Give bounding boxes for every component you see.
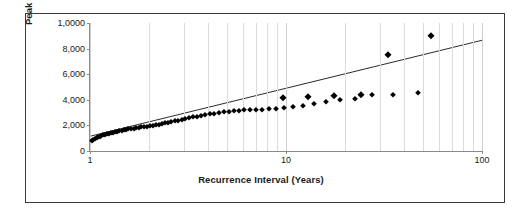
data-point [415, 90, 421, 96]
y-axis-tick-label: 8,000 [62, 44, 85, 54]
gridline-vertical [256, 23, 257, 151]
y-axis-title-text: Peak Stream Flow (cfs) [23, 0, 34, 32]
gridline-vertical [439, 23, 440, 151]
gridline-vertical [286, 23, 287, 151]
data-point [273, 106, 279, 112]
gridline-vertical [184, 23, 185, 151]
gridline-vertical [149, 23, 150, 151]
data-point [337, 97, 343, 103]
data-point [290, 104, 296, 110]
data-point [330, 92, 338, 100]
data-point [427, 32, 435, 40]
x-axis-tick-label: 10 [281, 155, 291, 165]
data-point [305, 93, 313, 101]
gridline-vertical [345, 23, 346, 151]
data-point [369, 92, 375, 98]
gridline-vertical [404, 23, 405, 151]
gridline-vertical [208, 23, 209, 151]
x-axis-title: Recurrence Interval (Years) [26, 174, 496, 185]
x-axis-tick-label: 1 [87, 155, 92, 165]
gridline-vertical [277, 23, 278, 151]
gridline-vertical [90, 23, 91, 151]
x-axis-tick-mark [482, 151, 483, 154]
y-axis-tick-label: 2,000 [62, 120, 85, 130]
x-axis-tick-mark [286, 151, 287, 154]
y-axis-tick-mark [87, 100, 90, 101]
gridline-vertical [267, 23, 268, 151]
y-axis-tick-mark [87, 49, 90, 50]
gridline-vertical [227, 23, 228, 151]
y-axis-title: Peak Stream Flow (cfs) [23, 0, 37, 32]
data-point [384, 51, 392, 59]
gridline-vertical [380, 23, 381, 151]
data-point [390, 92, 396, 98]
gridline-vertical [463, 23, 464, 151]
data-point [300, 102, 306, 108]
data-point [352, 95, 358, 101]
y-axis-tick-label: 0 [80, 146, 85, 156]
gridline-vertical [423, 23, 424, 151]
gridline-vertical [243, 23, 244, 151]
gridline-vertical [473, 23, 474, 151]
y-axis-tick-mark [87, 23, 90, 24]
x-axis-tick-mark [90, 151, 91, 154]
chart-figure: Peak Stream Flow (cfs) 02,0004,0006,0008… [25, 13, 505, 203]
y-axis-tick-label: 1,0000 [57, 18, 85, 28]
x-axis-title-text: Recurrence Interval (Years) [198, 174, 324, 185]
x-axis-tick-label: 100 [474, 155, 489, 165]
data-point [311, 101, 317, 107]
y-axis-tick-mark [87, 125, 90, 126]
data-point [323, 99, 329, 105]
gridline-vertical [482, 23, 483, 151]
plot-area: 02,0004,0006,0008,0001,0000110100 [89, 23, 482, 152]
y-axis-tick-mark [87, 74, 90, 75]
y-axis-tick-label: 4,000 [62, 95, 85, 105]
y-axis-tick-label: 6,000 [62, 69, 85, 79]
data-point [259, 107, 265, 113]
gridline-vertical [452, 23, 453, 151]
